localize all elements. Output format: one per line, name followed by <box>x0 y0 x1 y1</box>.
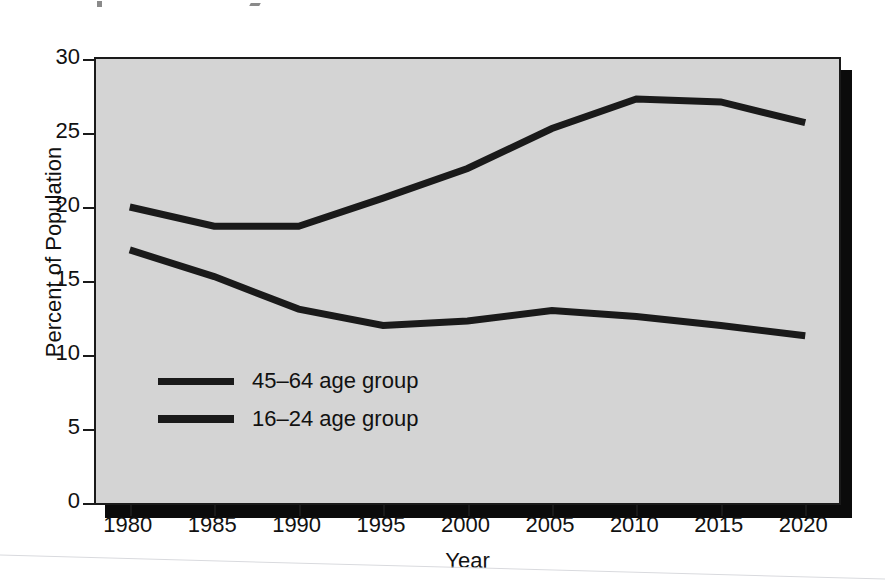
legend-item-16-24: 16–24 age group <box>158 400 488 438</box>
x-tick-label-2005: 2005 <box>505 512 595 538</box>
y-tick-10 <box>83 355 96 357</box>
x-tick-label-2015: 2015 <box>674 512 764 538</box>
legend-label-45-64: 45–64 age group <box>252 369 418 393</box>
chart-legend: 45–64 age group 16–24 age group <box>158 362 488 438</box>
x-tick-label-2020: 2020 <box>758 512 848 538</box>
x-tick-label-1980: 1980 <box>83 512 173 538</box>
y-tick-25 <box>83 133 96 135</box>
line-chart-figure: 051015202530 198019851990199520002005201… <box>0 0 885 582</box>
line-swatch-45-64-icon <box>158 378 234 385</box>
x-tick-label-1990: 1990 <box>252 512 342 538</box>
series-line-16-24-age-group <box>130 250 805 336</box>
y-tick-label-5: 5 <box>34 416 80 438</box>
x-tick-label-2010: 2010 <box>589 512 679 538</box>
x-tick-label-1995: 1995 <box>336 512 426 538</box>
x-tick-label-1985: 1985 <box>167 512 257 538</box>
y-tick-label-0: 0 <box>34 490 80 512</box>
y-axis-title: Percent of Population <box>42 102 66 402</box>
series-line-45-64-age-group <box>130 99 805 226</box>
x-axis-title: Year <box>94 548 841 574</box>
y-tick-20 <box>83 207 96 209</box>
y-tick-label-30: 30 <box>34 46 80 68</box>
y-tick-15 <box>83 281 96 283</box>
y-tick-30 <box>83 59 96 61</box>
legend-label-16-24: 16–24 age group <box>252 407 418 431</box>
line-swatch-16-24-icon <box>158 415 234 423</box>
x-tick-label-2000: 2000 <box>421 512 511 538</box>
y-tick-5 <box>83 429 96 431</box>
legend-item-45-64: 45–64 age group <box>158 362 488 400</box>
x-axis-tick-labels: 198019851990199520002005201020152020 <box>94 512 841 546</box>
y-tick-0 <box>83 503 96 505</box>
